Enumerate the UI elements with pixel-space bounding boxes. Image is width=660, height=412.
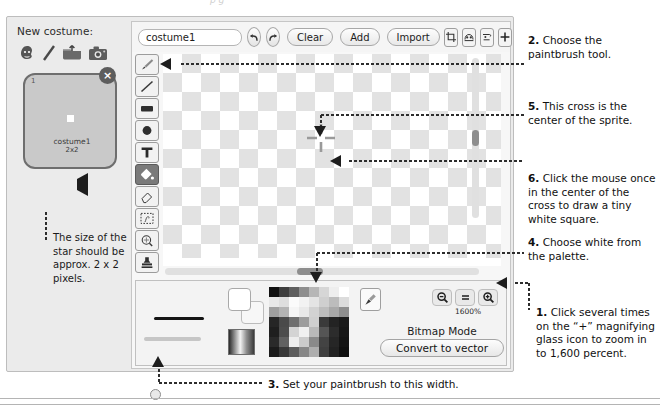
palette-swatch-0-4[interactable] [309, 287, 319, 297]
zoom-in-button[interactable] [478, 289, 498, 306]
palette-swatch-1-4[interactable] [309, 297, 319, 307]
palette-swatch-3-5[interactable] [319, 317, 329, 327]
palette-swatch-4-1[interactable] [279, 327, 289, 337]
color-palette-grid[interactable] [269, 287, 349, 358]
palette-swatch-2-1[interactable] [279, 307, 289, 317]
annotation-4-number: 4. [528, 236, 539, 248]
palette-swatch-4-4[interactable] [309, 327, 319, 337]
palette-swatch-5-6[interactable] [329, 337, 339, 347]
foreground-color-swatch[interactable] [228, 288, 251, 311]
palette-swatch-1-5[interactable] [319, 297, 329, 307]
palette-swatch-1-0[interactable] [269, 297, 279, 307]
cropped-header-text: p g [0, 0, 660, 12]
palette-swatch-3-1[interactable] [279, 317, 289, 327]
palette-swatch-3-4[interactable] [309, 317, 319, 327]
palette-swatch-0-5[interactable] [319, 287, 329, 297]
undo-button[interactable] [247, 27, 261, 47]
palette-swatch-6-2[interactable] [289, 347, 299, 357]
line-tool[interactable] [135, 76, 159, 97]
text-tool[interactable] [135, 142, 159, 163]
annotation-3-number: 3. [268, 378, 279, 390]
palette-swatch-6-5[interactable] [319, 347, 329, 357]
palette-swatch-0-2[interactable] [289, 287, 299, 297]
costume-name-input[interactable] [138, 29, 242, 46]
palette-swatch-2-6[interactable] [329, 307, 339, 317]
redo-button[interactable] [266, 27, 280, 47]
palette-swatch-2-0[interactable] [269, 307, 279, 317]
brush-width-slider[interactable] [144, 337, 201, 341]
palette-swatch-5-4[interactable] [309, 337, 319, 347]
palette-swatch-6-6[interactable] [329, 347, 339, 357]
clear-button[interactable]: Clear [287, 28, 333, 46]
add-button[interactable]: Add [340, 28, 379, 46]
palette-swatch-1-7[interactable] [339, 297, 349, 307]
palette-swatch-0-0[interactable] [269, 287, 279, 297]
zoom-out-button[interactable] [432, 289, 452, 306]
palette-swatch-4-7[interactable] [339, 327, 349, 337]
palette-swatch-4-2[interactable] [289, 327, 299, 337]
palette-swatch-3-7[interactable] [339, 317, 349, 327]
palette-swatch-6-0[interactable] [269, 347, 279, 357]
palette-swatch-2-5[interactable] [319, 307, 329, 317]
palette-swatch-1-3[interactable] [299, 297, 309, 307]
palette-swatch-6-3[interactable] [299, 347, 309, 357]
palette-swatch-5-1[interactable] [279, 337, 289, 347]
vertical-scrollbar-thumb[interactable] [472, 130, 479, 146]
upload-folder-icon[interactable] [61, 43, 83, 63]
crop-icon[interactable] [444, 28, 458, 47]
annotation-1-text: Click several times on the “+” magnifyin… [536, 306, 655, 359]
paint-sprite-icon[interactable] [17, 43, 37, 63]
close-icon[interactable]: × [99, 67, 116, 84]
palette-swatch-5-3[interactable] [299, 337, 309, 347]
brush-line-icon[interactable] [41, 43, 57, 63]
import-button[interactable]: Import [387, 28, 440, 46]
palette-swatch-6-4[interactable] [309, 347, 319, 357]
palette-swatch-4-3[interactable] [299, 327, 309, 337]
palette-swatch-0-7[interactable] [339, 287, 349, 297]
palette-swatch-5-0[interactable] [269, 337, 279, 347]
costume-thumbnail-dimensions: 2x2 [25, 146, 119, 154]
palette-swatch-5-5[interactable] [319, 337, 329, 347]
palette-swatch-1-1[interactable] [279, 297, 289, 307]
fill-tool[interactable] [135, 164, 159, 185]
palette-swatch-0-6[interactable] [329, 287, 339, 297]
palette-swatch-3-0[interactable] [269, 317, 279, 327]
palette-swatch-0-3[interactable] [299, 287, 309, 297]
palette-swatch-5-7[interactable] [339, 337, 349, 347]
canvas-vertical-scrollbar[interactable] [472, 58, 479, 218]
camera-icon[interactable] [87, 43, 109, 63]
convert-to-vector-button[interactable]: Convert to vector [380, 339, 504, 357]
palette-swatch-5-2[interactable] [289, 337, 299, 347]
set-center-icon[interactable] [498, 28, 512, 47]
palette-swatch-2-7[interactable] [339, 307, 349, 317]
zoom-reset-button[interactable] [455, 289, 475, 306]
rectangle-tool[interactable] [135, 98, 159, 119]
palette-swatch-0-1[interactable] [279, 287, 289, 297]
eyedropper-button[interactable] [360, 288, 381, 311]
palette-swatch-4-5[interactable] [319, 327, 329, 337]
palette-swatch-4-0[interactable] [269, 327, 279, 337]
canvas-horizontal-scrollbar[interactable] [165, 268, 479, 275]
select-tool[interactable] [135, 208, 159, 229]
fill-bucket-icon [139, 167, 155, 182]
flip-vertical-icon[interactable] [480, 28, 494, 47]
costume-thumbnail-card[interactable]: 1 costume1 2x2 × [23, 73, 117, 169]
palette-swatch-2-2[interactable] [289, 307, 299, 317]
palette-swatch-2-3[interactable] [299, 307, 309, 317]
reshape-tool[interactable] [135, 230, 159, 251]
paintbrush-tool[interactable] [135, 54, 159, 75]
stamp-tool[interactable] [135, 252, 159, 273]
palette-swatch-6-7[interactable] [339, 347, 349, 357]
flip-horizontal-icon[interactable] [462, 28, 476, 47]
palette-swatch-1-2[interactable] [289, 297, 299, 307]
palette-swatch-3-6[interactable] [329, 317, 339, 327]
palette-swatch-3-3[interactable] [299, 317, 309, 327]
palette-swatch-4-6[interactable] [329, 327, 339, 337]
palette-swatch-6-1[interactable] [279, 347, 289, 357]
gradient-swatch[interactable] [228, 329, 255, 355]
ellipse-tool[interactable] [135, 120, 159, 141]
palette-swatch-3-2[interactable] [289, 317, 299, 327]
eraser-tool[interactable] [135, 186, 159, 207]
palette-swatch-2-4[interactable] [309, 307, 319, 317]
palette-swatch-1-6[interactable] [329, 297, 339, 307]
